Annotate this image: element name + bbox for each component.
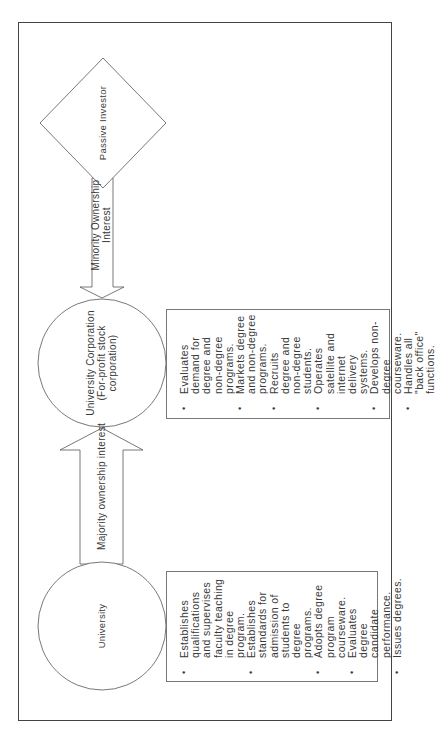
majority-ownership-label: Majority ownership interest [96, 440, 108, 550]
corporation-functions-box: Evaluates demand for degree and non-degr… [166, 309, 390, 419]
university-label: University [96, 586, 108, 666]
corporation-functions-list: Evaluates demand for degree and non-degr… [179, 314, 437, 414]
list-item: Recruits degree and non-degree students. [269, 314, 314, 394]
university-functions-list: Establishes qualifications and supervise… [179, 577, 403, 678]
list-item: Establishes qualifications and supervise… [179, 577, 246, 658]
university-corporation-label: University Corporation (For-profit stock… [85, 308, 119, 418]
list-item: Markets degree and non-degree programs. [235, 314, 269, 394]
list-item: Establishes standards for admission of s… [246, 577, 313, 658]
corporation-label-line3: corporation) [107, 308, 118, 418]
university-functions-box: Establishes qualifications and supervise… [166, 571, 378, 682]
list-item: Evaluates demand for degree and non-degr… [179, 314, 235, 394]
list-item: Handles all "back office" functions. [403, 314, 437, 394]
minority-ownership-label: Minority Ownership Interest [90, 175, 114, 275]
list-item: Evaluates degree candidate performance. [347, 577, 392, 658]
corporation-label-line2: (For-profit stock [96, 308, 107, 418]
minority-label-line2: Interest [101, 175, 112, 275]
minority-label-line1: Minority Ownership [90, 175, 101, 275]
corporation-label-line1: University Corporation [85, 308, 96, 418]
list-item: Operates satellite and internet delivery… [313, 314, 369, 394]
list-item: Adopts degree program courseware. [313, 577, 347, 658]
list-item: Issues degrees. [392, 577, 403, 658]
list-item: Develops non-degree courseware. [369, 314, 403, 394]
passive-investor-label: Passive Investor [97, 73, 109, 173]
